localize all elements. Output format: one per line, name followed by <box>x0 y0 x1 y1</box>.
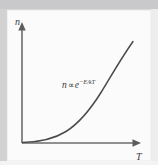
figure-container: n T n∝e−E/kT <box>0 0 158 165</box>
exponential-curve <box>23 42 134 143</box>
y-axis-label: n <box>15 16 20 27</box>
formula-annotation: n∝e−E/kT <box>62 79 95 91</box>
formula-exponent: −E/kT <box>79 78 95 85</box>
proportional-symbol: ∝ <box>67 80 75 90</box>
x-axis-arrowhead <box>133 139 142 146</box>
x-axis-label: T <box>136 151 143 162</box>
